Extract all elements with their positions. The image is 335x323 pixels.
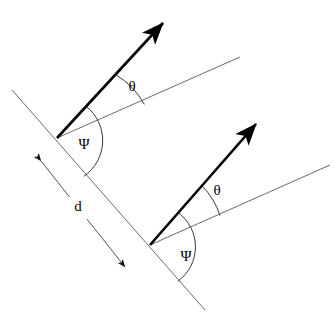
lower-psi-label: Ψ <box>180 248 192 264</box>
upper-psi-label: Ψ <box>78 136 90 152</box>
diagram-background <box>0 0 335 323</box>
lower-theta-label: θ <box>213 182 220 198</box>
upper-theta-label: θ <box>128 78 135 94</box>
interplanar-spacing-label: d <box>74 198 82 214</box>
angle-diagram-svg: θ Ψ θ Ψ d <box>0 0 335 323</box>
diagram-canvas: θ Ψ θ Ψ d <box>0 0 335 323</box>
